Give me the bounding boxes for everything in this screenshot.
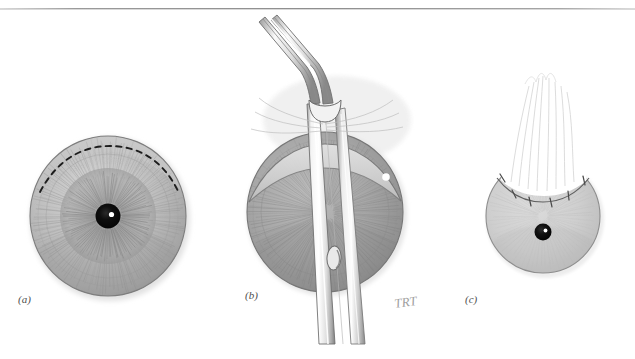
artist-signature: TRT xyxy=(393,293,418,311)
figure-canvas: (a) xyxy=(0,0,635,359)
panel-b-label: (b) xyxy=(245,289,258,302)
panel-b: (b) TRT xyxy=(215,0,455,359)
light-reflex xyxy=(109,212,114,217)
panel-a-label: (a) xyxy=(18,293,31,306)
panel-c-label: (c) xyxy=(465,293,478,306)
panel-b-drawing: (b) TRT xyxy=(215,0,455,359)
panel-a-drawing: (a) xyxy=(0,0,215,359)
pupil xyxy=(96,204,121,229)
light-reflex xyxy=(544,229,548,233)
panel-c: (c) xyxy=(455,0,635,359)
corneal-highlight-dot xyxy=(382,173,390,181)
pupil xyxy=(535,224,552,241)
panel-a: (a) xyxy=(0,0,215,359)
panel-c-drawing: (c) xyxy=(455,0,635,359)
